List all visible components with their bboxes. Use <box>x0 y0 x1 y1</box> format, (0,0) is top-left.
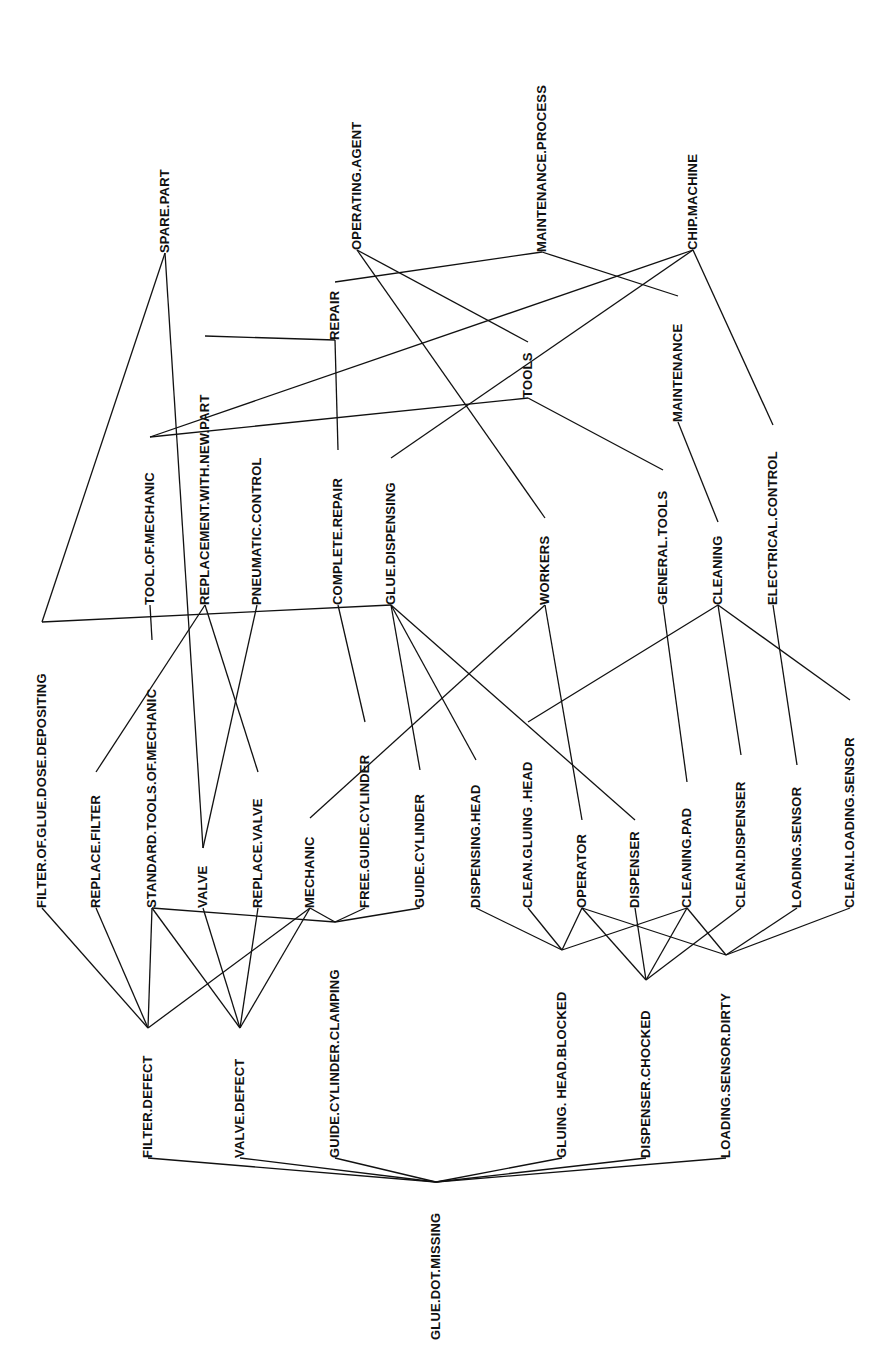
node-operator: OPERATOR <box>575 820 589 908</box>
node-operating-agent: OPERATING.AGENT <box>350 96 364 250</box>
edge-mechanic-valve_defect <box>240 908 310 1028</box>
edge-maintenance-cleaning <box>678 422 718 522</box>
edge-glue_dispensing-filter_of_glue_dose_depositing <box>42 605 391 622</box>
edge-complete_repair-free_guide_cylinder <box>338 605 365 722</box>
node-clean-loading-sensor: CLEAN.LOADING.SENSOR <box>843 700 857 908</box>
node-tools: TOOLS <box>521 342 535 398</box>
edge-layer <box>0 0 874 1353</box>
node-workers: WORKERS <box>538 518 552 605</box>
node-replace-valve: REPLACE.VALVE <box>251 772 265 908</box>
node-gluing-head-blocked: GLUING. HEAD.BLOCKED <box>555 950 569 1158</box>
edge-dispensing_head-gluing_head_blocked <box>476 908 562 950</box>
node-dispensing-head: DISPENSING.HEAD <box>469 760 483 908</box>
edge-clean_gluing_head-gluing_head_blocked <box>528 908 562 950</box>
edge-mechanic-filter_defect <box>148 908 310 1028</box>
edge-standard_tools_of_mechanic-filter_defect <box>148 908 152 1028</box>
node-dispenser: DISPENSER <box>628 820 642 908</box>
edge-valve-valve_defect <box>203 908 240 1028</box>
edge-replace_valve-valve_defect <box>240 908 258 1028</box>
node-glue-dispensing: GLUE.DISPENSING <box>384 458 398 605</box>
node-dispenser-chocked: DISPENSER.CHOCKED <box>639 980 653 1158</box>
node-electrical-control: ELECTRICAL.CONTROL <box>766 425 780 605</box>
node-general-tools: GENERAL.TOOLS <box>656 470 670 605</box>
edge-standard_tools_of_mechanic-valve_defect <box>152 908 240 1028</box>
edge-loading_sensor_dirty-glue_dot_missing <box>436 1158 726 1182</box>
node-clean-gluing-head: CLEAN.GLUING .HEAD <box>521 722 535 908</box>
edge-replacement_with_new_part-replace_valve <box>205 605 258 772</box>
node-loading-sensor: LOADING.SENSOR <box>790 765 804 908</box>
edge-valve_defect-glue_dot_missing <box>240 1158 436 1182</box>
edge-cleaning-clean_loading_sensor <box>718 605 850 700</box>
node-spare-part: SPARE.PART <box>158 155 172 253</box>
edge-cleaning-clean_gluing_head <box>528 605 718 722</box>
edge-clean_loading_sensor-loading_sensor_dirty <box>726 908 850 955</box>
node-mechanic: MECHANIC <box>303 818 317 908</box>
node-guide-cylinder-clamping: GUIDE.CYLINDER.CLAMPING <box>328 922 342 1158</box>
edge-cleaning-clean_dispenser <box>718 605 741 755</box>
edge-chip_machine-glue_dispensing <box>391 250 693 458</box>
node-repair: REPAIR <box>328 282 342 340</box>
node-maintenance: MAINTENANCE <box>671 296 685 422</box>
node-maintenance-process: MAINTENANCE.PROCESS <box>535 48 549 252</box>
node-chip-machine: CHIP.MACHINE <box>686 128 700 250</box>
edge-operating_agent-tools <box>357 250 528 342</box>
edge-replace_filter-filter_defect <box>96 908 148 1028</box>
edge-filter_defect-glue_dot_missing <box>148 1158 436 1182</box>
node-valve: VALVE <box>196 848 210 908</box>
edge-glue_dispensing-dispensing_head <box>391 605 476 760</box>
edge-repair-replacement_with_new_part <box>205 336 335 340</box>
node-tool-of-mechanic: TOOL.OF.MECHANIC <box>143 437 157 605</box>
node-pneumatic-control: PNEUMATIC.CONTROL <box>250 422 264 605</box>
edge-electrical_control-loading_sensor <box>773 605 797 765</box>
edge-guide_cylinder-guide_cylinder_clamping <box>335 908 420 922</box>
node-complete-repair: COMPLETE.REPAIR <box>331 450 345 605</box>
edge-maintenance_process-repair <box>335 252 542 282</box>
node-free-guide-cylinder: FREE.GUIDE.CYLINDER <box>358 722 372 908</box>
node-standard-tools-of-mechanic: STANDARD.TOOLS.OF.MECHANIC <box>145 640 159 908</box>
edge-cleaning_pad-loading_sensor_dirty <box>687 908 726 955</box>
edge-tool_of_mechanic-standard_tools_of_mechanic <box>150 605 152 640</box>
edge-glue_dispensing-guide_cylinder <box>391 605 420 770</box>
edge-glue_dispensing-dispenser <box>391 605 635 820</box>
node-replace-filter: REPLACE.FILTER <box>89 772 103 908</box>
node-guide-cylinder: GUIDE.CYLINDER <box>413 770 427 908</box>
node-replacement-with-new-part: REPLACEMENT.WITH.NEW.PART <box>198 336 212 605</box>
node-cleaning-pad: CLEANING.PAD <box>680 782 694 908</box>
edge-cleaning_pad-gluing_head_blocked <box>562 908 687 950</box>
node-glue-dot-missing: GLUE.DOT.MISSING <box>429 1182 443 1340</box>
edge-pneumatic_control-valve <box>203 605 257 848</box>
edge-chip_machine-electrical_control <box>693 250 773 425</box>
edge-tools-general_tools <box>528 398 663 470</box>
node-clean-dispenser: CLEAN.DISPENSER <box>734 755 748 908</box>
node-valve-defect: VALVE.DEFECT <box>233 1028 247 1158</box>
node-filter-of-glue-dose-depositing: FILTER.OF.GLUE.DOSE.DEPOSITING <box>35 622 49 908</box>
node-filter-defect: FILTER.DEFECT <box>141 1028 155 1158</box>
edge-filter_of_glue_dose_depositing-filter_defect <box>42 908 148 1028</box>
edge-workers-operator <box>545 605 582 820</box>
node-loading-sensor-dirty: LOADING.SENSOR.DIRTY <box>719 955 733 1158</box>
edge-cleaning_pad-dispenser_chocked <box>646 908 687 980</box>
edge-repair-complete_repair <box>335 340 338 450</box>
node-cleaning: CLEANING <box>711 522 725 605</box>
